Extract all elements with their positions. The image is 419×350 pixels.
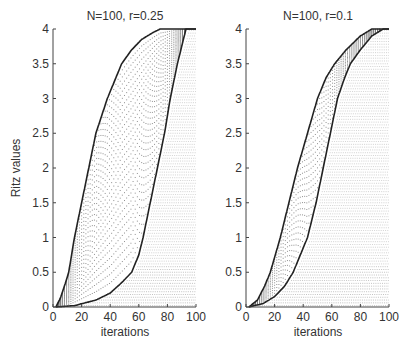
smallest-ritz-curve [249,29,389,307]
y-tick-label: 0 [235,300,242,314]
panel-left-xlabel: iterations [101,325,150,339]
interior-ritz-dots [58,29,186,307]
x-tick-label: 0 [243,310,250,324]
x-tick-label: 100 [186,310,206,324]
y-tick-label: 3.5 [32,57,49,71]
y-tick-label: 2 [42,161,49,175]
y-tick-label: 1.5 [32,196,49,210]
x-tick-label: 20 [268,310,282,324]
ritz-values-figure: 00.511.522.533.54020406080100 00.511.522… [0,0,419,350]
y-tick-label: 4 [235,22,242,36]
x-tick-label: 100 [379,310,399,324]
panel-right-title: N=100, r=0.1 [283,9,353,23]
smallest-ritz-curve [56,29,196,307]
y-tick-label: 2 [235,161,242,175]
y-tick-label: 2.5 [225,126,242,140]
largest-ritz-curve [249,29,389,307]
x-tick-label: 60 [132,310,146,324]
y-tick-label: 1 [42,231,49,245]
x-tick-label: 0 [50,310,57,324]
panel-right-xlabel: iterations [294,325,343,339]
largest-ritz-curve [56,29,196,307]
y-tick-label: 0.5 [32,265,49,279]
x-tick-label: 60 [325,310,339,324]
y-tick-label: 2.5 [32,126,49,140]
y-tick-label: 0.5 [225,265,242,279]
y-tick-label: 0 [42,300,49,314]
panel-right-r01: 00.511.522.533.54020406080100 [225,22,399,324]
panel-left-r025: 00.511.522.533.54020406080100 [32,22,206,324]
converged-ritz-dots [77,30,196,305]
y-tick-label: 1.5 [225,196,242,210]
y-tick-label: 3 [42,92,49,106]
y-tick-label: 3 [235,92,242,106]
x-tick-label: 40 [297,310,311,324]
x-tick-label: 80 [354,310,368,324]
y-tick-label: 1 [235,231,242,245]
x-tick-label: 20 [75,310,89,324]
x-tick-label: 80 [161,310,175,324]
x-tick-label: 40 [104,310,118,324]
y-tick-label: 3.5 [225,57,242,71]
y-axis-label: Ritz values [9,139,23,198]
panel-left-title: N=100, r=0.25 [87,9,164,23]
y-tick-label: 4 [42,22,49,36]
